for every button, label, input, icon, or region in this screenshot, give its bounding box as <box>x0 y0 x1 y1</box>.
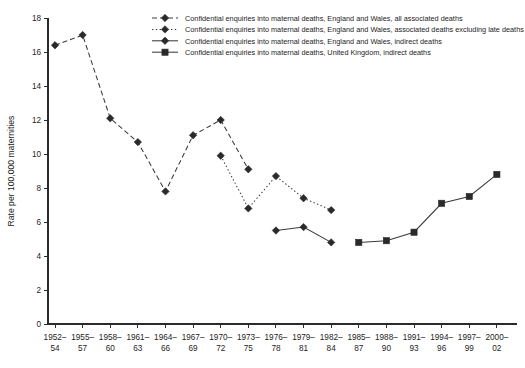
x-tick-label: 1976– <box>265 333 288 342</box>
data-point-marker-diamond <box>272 172 279 179</box>
x-tick-label-second-line: 87 <box>354 344 364 353</box>
x-tick-label: 1964– <box>154 333 177 342</box>
data-point-marker-square <box>466 193 472 199</box>
x-tick-label-second-line: 63 <box>133 344 143 353</box>
series-line <box>221 156 331 210</box>
chart-container: 024681012141618 1952–541955–571958–60196… <box>0 0 525 368</box>
y-tick-label: 12 <box>32 116 42 125</box>
x-tick-label: 1973– <box>237 333 260 342</box>
data-point-marker-diamond <box>161 37 168 44</box>
data-point-marker-diamond <box>134 138 141 145</box>
y-tick-label: 2 <box>36 286 41 295</box>
series-line <box>55 35 248 191</box>
data-series-group <box>51 31 500 246</box>
y-tick-label: 6 <box>36 218 41 227</box>
x-tick-label-second-line: 72 <box>216 344 226 353</box>
x-tick-label: 1982– <box>320 333 343 342</box>
data-point-marker-diamond <box>51 42 58 49</box>
data-point-marker-diamond <box>272 227 279 234</box>
x-tick-label: 1985– <box>347 333 370 342</box>
data-point-marker-diamond <box>217 116 224 123</box>
y-tick-label: 4 <box>36 252 41 261</box>
x-tick-label: 1970– <box>209 333 232 342</box>
x-tick-label: 1955– <box>71 333 94 342</box>
series-4 <box>356 171 500 245</box>
legend-label: Confidential enquiries into maternal dea… <box>185 37 442 46</box>
y-axis: 024681012141618 <box>32 14 48 329</box>
data-point-marker-diamond <box>162 188 169 195</box>
x-tick-label-second-line: 96 <box>437 344 447 353</box>
y-tick-label: 16 <box>32 48 42 57</box>
x-tick-label-second-line: 78 <box>271 344 281 353</box>
data-point-marker-diamond <box>245 205 252 212</box>
y-tick-label: 10 <box>32 150 42 159</box>
x-tick-label-second-line: 84 <box>327 344 337 353</box>
x-tick-label: 1997– <box>458 333 481 342</box>
x-tick-label-second-line: 66 <box>161 344 171 353</box>
x-tick-label-second-line: 54 <box>50 344 60 353</box>
x-tick-label: 1994– <box>430 333 453 342</box>
x-tick-label-second-line: 60 <box>106 344 116 353</box>
series-2 <box>217 152 335 214</box>
data-point-marker-diamond <box>327 239 334 246</box>
y-tick-label: 18 <box>32 14 42 23</box>
data-point-marker-diamond <box>161 26 168 33</box>
data-point-marker-square <box>411 229 417 235</box>
series-line <box>359 174 497 242</box>
x-tick-label-second-line: 81 <box>299 344 309 353</box>
data-point-marker-square <box>494 171 500 177</box>
data-point-marker-diamond <box>327 206 334 213</box>
x-axis: 1952–541955–571958–601961–631964–661967–… <box>44 324 517 353</box>
x-tick-label: 1991– <box>403 333 426 342</box>
x-tick-label-second-line: 57 <box>78 344 88 353</box>
series-3 <box>272 223 335 246</box>
data-point-marker-diamond <box>79 31 86 38</box>
x-tick-label: 2000– <box>485 333 508 342</box>
x-tick-label-second-line: 99 <box>465 344 475 353</box>
legend-label: Confidential enquiries into maternal dea… <box>185 25 524 34</box>
line-chart: 024681012141618 1952–541955–571958–60196… <box>0 0 525 368</box>
x-tick-label-second-line: 75 <box>244 344 254 353</box>
x-tick-label-second-line: 90 <box>382 344 392 353</box>
legend-label: Confidential enquiries into maternal dea… <box>185 14 463 23</box>
y-axis-title: Rate per 100,000 maternities <box>6 116 16 227</box>
legend-item-4[interactable]: Confidential enquiries into maternal dea… <box>152 48 431 57</box>
x-tick-label: 1988– <box>375 333 398 342</box>
y-tick-label: 14 <box>32 82 42 91</box>
x-tick-label: 1967– <box>182 333 205 342</box>
data-point-marker-diamond <box>300 223 307 230</box>
data-point-marker-diamond <box>189 132 196 139</box>
chart-legend: Confidential enquiries into maternal dea… <box>152 14 524 57</box>
y-tick-label: 0 <box>36 320 41 329</box>
data-point-marker-diamond <box>161 14 168 21</box>
data-point-marker-square <box>439 200 445 206</box>
x-tick-label-second-line: 93 <box>409 344 419 353</box>
x-tick-label: 1979– <box>292 333 315 342</box>
x-tick-label: 1958– <box>99 333 122 342</box>
x-tick-label: 1961– <box>126 333 149 342</box>
data-point-marker-diamond <box>217 152 224 159</box>
legend-label: Confidential enquiries into maternal dea… <box>185 48 431 57</box>
data-point-marker-square <box>162 49 168 55</box>
y-tick-label: 8 <box>36 184 41 193</box>
legend-item-1[interactable]: Confidential enquiries into maternal dea… <box>152 14 463 23</box>
legend-item-2[interactable]: Confidential enquiries into maternal dea… <box>152 25 524 34</box>
legend-item-3[interactable]: Confidential enquiries into maternal dea… <box>152 37 442 46</box>
data-point-marker-square <box>383 238 389 244</box>
data-point-marker-diamond <box>245 166 252 173</box>
x-tick-label: 1952– <box>44 333 67 342</box>
data-point-marker-square <box>356 239 362 245</box>
y-axis-label-text: Rate per 100,000 maternities <box>6 116 16 227</box>
x-tick-label-second-line: 02 <box>492 344 502 353</box>
x-tick-label-second-line: 69 <box>189 344 199 353</box>
